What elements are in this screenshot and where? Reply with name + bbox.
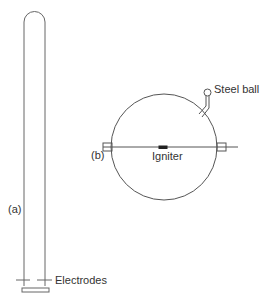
panel-a-label: (a): [8, 204, 21, 215]
steel-ball-stem: [199, 96, 209, 117]
tube-base-plate: [22, 288, 49, 292]
igniter-element: [159, 146, 167, 149]
igniter-label: Igniter: [152, 151, 183, 162]
panel-b-label: (b): [91, 150, 104, 161]
steel-ball: [204, 89, 211, 96]
tube-apparatus: [16, 12, 52, 292]
sphere-apparatus: [103, 89, 238, 200]
tube-outline: [24, 12, 45, 286]
electrodes-label: Electrodes: [55, 275, 107, 286]
apparatus-diagram: [0, 0, 267, 305]
steel-ball-label: Steel ball: [214, 84, 259, 95]
